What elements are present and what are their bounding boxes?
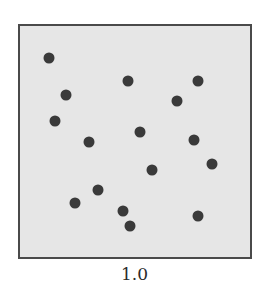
data-point xyxy=(135,127,146,138)
data-point xyxy=(118,206,129,217)
data-point xyxy=(193,211,204,222)
data-point xyxy=(93,185,104,196)
data-point xyxy=(44,53,55,64)
data-point xyxy=(123,76,134,87)
data-point xyxy=(207,159,218,170)
scatter-plot-area xyxy=(18,24,252,259)
data-point xyxy=(172,96,183,107)
data-point xyxy=(147,165,158,176)
data-point xyxy=(84,137,95,148)
data-point xyxy=(193,76,204,87)
data-point xyxy=(125,221,136,232)
data-point xyxy=(70,198,81,209)
data-point xyxy=(50,116,61,127)
data-point xyxy=(61,90,72,101)
figure-caption: 1.0 xyxy=(0,264,269,284)
data-point xyxy=(189,135,200,146)
